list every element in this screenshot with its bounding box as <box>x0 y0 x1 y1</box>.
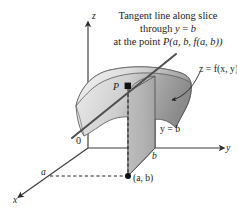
b-tick-label: b <box>152 150 157 161</box>
point-p-marker <box>125 83 131 89</box>
point-ab-label: (a, b) <box>133 172 153 184</box>
caption-line-3-prefix: at the point <box>114 36 163 47</box>
caption-line-2-prefix: through <box>140 23 175 34</box>
caption-line-2-value: b <box>191 23 196 34</box>
point-ab-marker <box>125 173 131 179</box>
caption-line-2-equals: = <box>180 23 191 34</box>
plane-equation-label: y = b <box>160 123 180 134</box>
figure-canvas: Tangent line along slice through y = b a… <box>0 0 237 214</box>
y-axis-label: y <box>225 142 231 153</box>
caption-line-3-point: P(a, b, f(a, b)) <box>162 36 223 48</box>
origin-label: 0 <box>76 135 81 146</box>
point-p-label: P <box>112 81 119 92</box>
x-axis <box>20 148 88 196</box>
surface-equation-label: z = f(x, y) <box>199 63 237 75</box>
a-tick-label: a <box>41 166 46 177</box>
caption-line-2: through y = b <box>140 23 196 34</box>
z-axis-label: z <box>91 10 96 21</box>
cutting-plane-front-sliver <box>128 76 155 176</box>
tangent-line-figure: Tangent line along slice through y = b a… <box>0 0 237 214</box>
caption-line-1: Tangent line along slice <box>119 10 218 21</box>
caption-line-3: at the point P(a, b, f(a, b)) <box>114 36 223 48</box>
x-axis-label: x <box>12 194 18 205</box>
